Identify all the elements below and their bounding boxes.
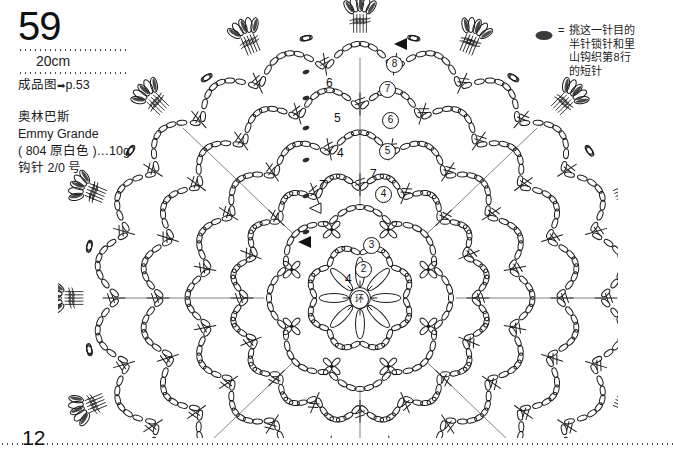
stitch-label-5: 5 xyxy=(334,111,341,125)
crochet-chart: 6 5 4 7 7 4 8 7 6 5 4 3 2 环 xyxy=(58,0,618,438)
round-label-6: 6 xyxy=(382,112,399,129)
footer-page-number: 12 xyxy=(22,426,45,450)
chart-geometry xyxy=(58,0,618,438)
round-label-3: 3 xyxy=(363,237,380,254)
round-label-8: 8 xyxy=(386,56,403,73)
stitch-label-4b: 4 xyxy=(345,272,352,286)
finished-photo-label: 成品图 xyxy=(18,78,57,92)
page-canvas: 59 20cm 成品图➡p.53 奥林巴斯 Emmy Grande ( 804 … xyxy=(0,0,673,462)
start-arrow-icon xyxy=(394,38,407,50)
stitch-label-7a: 7 xyxy=(370,167,377,181)
round-label-2: 2 xyxy=(355,261,372,278)
round-label-4: 4 xyxy=(375,186,392,203)
stitch-label-7b: 7 xyxy=(319,178,326,192)
stitch-label-6: 6 xyxy=(326,76,333,90)
start-arrow-icon xyxy=(298,236,311,248)
round-label-7: 7 xyxy=(379,81,396,98)
center-ring-label: 环 xyxy=(350,290,369,309)
crochet-chart-svg xyxy=(58,0,618,438)
round-label-5: 5 xyxy=(379,143,396,160)
stitch-label-4a: 4 xyxy=(337,146,344,160)
footer-divider: 12 xyxy=(0,442,673,446)
